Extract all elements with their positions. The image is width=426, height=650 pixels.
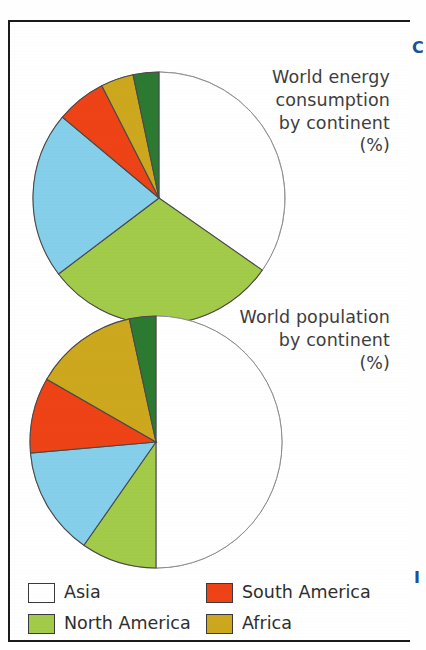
legend-label-north-america: North America	[64, 615, 191, 633]
legend-label-south-america: South America	[242, 584, 371, 602]
edge-text-bottom-fragment: I	[414, 566, 426, 591]
legend-item-south-america[interactable]: South America	[206, 583, 400, 603]
caption-population: World population by continent (%)	[180, 306, 390, 374]
legend-swatch-africa	[206, 614, 233, 634]
page-canvas: World energy consumption by continent (%…	[0, 0, 426, 650]
legend-swatch-south-america	[206, 583, 233, 603]
figure-frame: World energy consumption by continent (%…	[8, 20, 410, 642]
legend-item-africa[interactable]: Africa	[206, 614, 400, 634]
legend: Asia South America North America Africa …	[28, 577, 400, 642]
legend-label-africa: Africa	[242, 615, 292, 633]
caption-energy: World energy consumption by continent (%…	[190, 66, 390, 157]
legend-item-asia[interactable]: Asia	[28, 583, 206, 603]
legend-label-asia: Asia	[64, 584, 101, 602]
legend-swatch-asia	[28, 583, 55, 603]
edge-text-top-fragment: C a	[412, 36, 426, 61]
legend-item-north-america[interactable]: North America	[28, 614, 206, 634]
legend-swatch-north-america	[28, 614, 55, 634]
